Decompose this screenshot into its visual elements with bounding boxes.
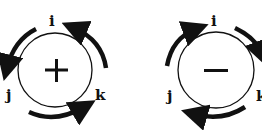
label-j: j — [4, 86, 11, 104]
label-j: j — [165, 87, 172, 105]
quaternion-rotation-diagram: i j k i j k — [0, 0, 262, 134]
label-i: i — [211, 12, 217, 30]
label-k: k — [95, 86, 106, 104]
positive-diagram: i j k — [4, 12, 106, 117]
ccw-arrow-top-left-icon — [7, 29, 36, 68]
negative-diagram: i j k — [165, 12, 262, 117]
label-k: k — [256, 87, 262, 105]
ccw-arrow-bottom-icon — [29, 107, 84, 117]
ccw-arrow-right-icon — [74, 28, 106, 68]
label-i: i — [49, 12, 55, 30]
cw-arrow-left-icon — [167, 29, 196, 66]
plus-sign-icon — [45, 59, 68, 82]
